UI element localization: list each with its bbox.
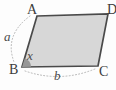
parallelogram-shape bbox=[22, 14, 108, 67]
vertex-label-top-right: D bbox=[107, 2, 116, 17]
parallelogram-diagram: A D B C a b x bbox=[0, 0, 116, 90]
vertex-label-top-left: A bbox=[27, 2, 38, 17]
side-a-label: a bbox=[4, 29, 11, 44]
angle-x-label: x bbox=[26, 48, 33, 63]
diagram-svg: A D B C a b x bbox=[0, 0, 116, 90]
vertex-label-bottom-left: B bbox=[9, 62, 18, 77]
side-b-label: b bbox=[54, 68, 61, 83]
vertex-label-bottom-right: C bbox=[99, 64, 108, 79]
